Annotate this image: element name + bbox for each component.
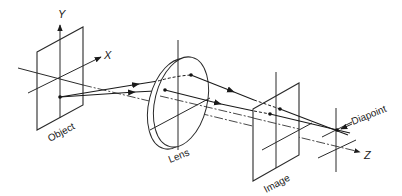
diapoint-dot [335, 128, 339, 132]
image-plane [253, 72, 350, 181]
object-label: Object [46, 120, 77, 143]
y-axis-label: Y [58, 8, 66, 20]
diapoint-label: Diapoint [350, 103, 388, 127]
z-axis-label: Z [363, 149, 372, 161]
object-plane [28, 25, 101, 130]
optical-diagram: Y X Z Object Lens Image Diapoint [0, 0, 402, 196]
x-axis-label: X [103, 49, 112, 61]
image-label: Image [262, 172, 292, 195]
